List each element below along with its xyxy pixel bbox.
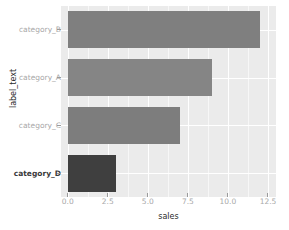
bar-category_D (68, 155, 116, 192)
y-axis-title: label_text (9, 54, 18, 124)
x-axis-tick-label: 5.0 (133, 197, 163, 206)
bar-category_C (68, 107, 180, 144)
plot-panel (61, 6, 276, 197)
y-axis-tick-label: category_D (3, 169, 61, 178)
x-axis-tick-5.0: 5.0 (133, 197, 163, 206)
y-axis-tick-category_B: category_B (0, 25, 61, 34)
x-axis-tick-7.5: 7.5 (173, 197, 203, 206)
x-axis-tick-label: 0.0 (53, 197, 83, 206)
y-axis-tick-category_C: category_C (0, 121, 61, 130)
bar-category_B (68, 11, 260, 48)
x-axis-title: sales (61, 212, 276, 221)
x-axis-tick-label: 12.5 (253, 197, 283, 206)
x-axis-tick-mark (267, 193, 268, 197)
x-axis-tick-mark (107, 193, 108, 197)
y-axis-tick-category_A: category_A (0, 73, 61, 82)
x-axis-tick-mark (67, 193, 68, 197)
bar-chart: label_text category_Bcategory_Acategory_… (0, 0, 289, 230)
y-axis-tick-label: category_A (3, 73, 61, 82)
y-axis-tick-label: category_C (3, 121, 61, 130)
x-axis-tick-2.5: 2.5 (93, 197, 123, 206)
x-axis-tick-mark (227, 193, 228, 197)
gridline-vertical-major (268, 6, 269, 197)
x-axis-tick-label: 7.5 (173, 197, 203, 206)
x-axis-tick-mark (147, 193, 148, 197)
x-axis-tick-label: 2.5 (93, 197, 123, 206)
y-axis-tick-category_D: category_D (0, 169, 61, 178)
x-axis-tick-12.5: 12.5 (253, 197, 283, 206)
y-axis-tick-label: category_B (3, 25, 61, 34)
x-axis-tick-label: 10.0 (213, 197, 243, 206)
x-axis-tick-0.0: 0.0 (53, 197, 83, 206)
x-axis-tick-10.0: 10.0 (213, 197, 243, 206)
x-axis-tick-mark (187, 193, 188, 197)
bar-category_A (68, 59, 212, 96)
